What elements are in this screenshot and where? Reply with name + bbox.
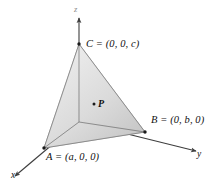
vertex-label-A: A = (a, 0, 0)	[46, 152, 99, 163]
point-dot-P	[93, 103, 96, 106]
point-label-P: P	[98, 99, 104, 109]
tetrahedron-solid	[44, 44, 145, 148]
axis-label-z: z	[74, 5, 77, 14]
figure-container: C = (0, 0, c) B = (0, b, 0) A = (a, 0, 0…	[0, 0, 209, 186]
vertex-dot-B	[143, 130, 146, 133]
axis-label-y: y	[197, 150, 201, 160]
vertex-dot-C	[77, 42, 80, 45]
tetrahedron-diagram	[0, 0, 209, 186]
face-ABC	[44, 44, 145, 148]
vertex-label-C: C = (0, 0, c)	[86, 39, 139, 50]
vertex-dot-A	[42, 146, 45, 149]
axis-label-x: x	[11, 171, 15, 181]
vertex-label-B: B = (0, b, 0)	[151, 115, 204, 126]
